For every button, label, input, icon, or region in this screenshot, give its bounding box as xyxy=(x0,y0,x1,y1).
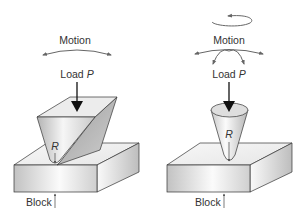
rotation-arrow-icon xyxy=(212,16,252,26)
motion-label: Motion xyxy=(213,34,245,46)
double-headed-arc-arrow-icon xyxy=(195,50,263,55)
wedge-panel: Motion Load P R Block xyxy=(14,34,139,208)
motion-label: Motion xyxy=(59,34,91,46)
double-headed-arc-arrow-icon xyxy=(43,50,111,55)
load-label: Load P xyxy=(212,68,245,80)
radius-label: R xyxy=(51,140,59,152)
cone-panel: Motion Load P R Block xyxy=(167,16,292,208)
diagram-canvas: Motion Load P R Block xyxy=(0,0,300,223)
block-label: Block xyxy=(195,196,221,208)
block-label: Block xyxy=(26,196,52,208)
load-label: Load P xyxy=(60,68,93,80)
double-headed-small-arc-arrow-icon xyxy=(213,50,244,64)
radius-label: R xyxy=(225,128,233,140)
